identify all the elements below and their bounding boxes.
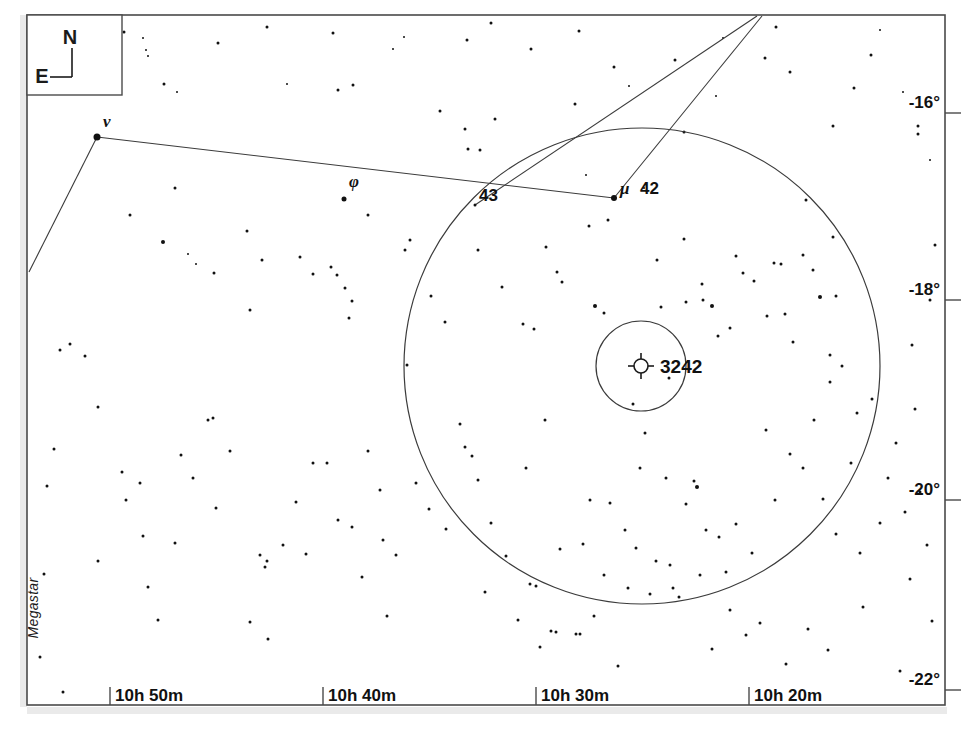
compass-inset: N E — [27, 15, 122, 95]
star-point — [649, 593, 652, 596]
compass-east-label: E — [35, 65, 48, 87]
object-label-mu: μ — [619, 179, 629, 198]
star-point — [931, 620, 934, 623]
star-point — [533, 328, 536, 331]
star-point — [336, 274, 339, 277]
star-point — [627, 587, 630, 590]
star-point — [312, 462, 315, 465]
star-point — [742, 272, 745, 275]
star-point — [180, 454, 183, 457]
star-point — [829, 354, 832, 357]
object-label-nu: ν — [103, 112, 111, 131]
star-point — [856, 412, 859, 415]
star-point — [871, 398, 874, 401]
star-point — [46, 485, 49, 488]
star-point — [678, 596, 681, 599]
star-point-star-43 — [474, 204, 477, 207]
star-point — [217, 42, 220, 45]
star-point — [477, 249, 480, 252]
star-point — [43, 573, 46, 576]
star-point — [899, 670, 902, 673]
star-point — [841, 365, 844, 368]
star-point — [702, 299, 705, 302]
star-point — [69, 343, 72, 346]
star-point — [773, 262, 776, 265]
star-point — [729, 327, 732, 330]
star-point — [379, 489, 382, 492]
star-point — [575, 633, 578, 636]
star-point — [660, 306, 663, 309]
star-point — [404, 249, 407, 252]
star-point — [745, 634, 748, 637]
star-point — [337, 89, 340, 92]
star-point — [445, 528, 448, 531]
object-label-phi: φ — [349, 172, 359, 191]
star-point — [701, 283, 704, 286]
star-point — [530, 48, 533, 51]
star-point — [805, 199, 808, 202]
star-point — [464, 128, 467, 131]
star-point — [588, 225, 591, 228]
star-point — [917, 125, 920, 128]
star-point — [904, 511, 907, 514]
star-point — [367, 214, 370, 217]
star-point — [123, 31, 126, 34]
star-point — [827, 649, 830, 652]
star-point-phi — [342, 197, 347, 202]
star-point — [266, 26, 269, 29]
star-point — [406, 364, 409, 367]
star-point — [266, 560, 269, 563]
star-point — [326, 462, 329, 465]
star-point — [695, 485, 699, 489]
star-point — [718, 536, 721, 539]
star-point — [249, 309, 252, 312]
star-point — [683, 238, 686, 241]
star-point — [813, 419, 816, 422]
star-point — [84, 355, 87, 358]
star-point — [832, 125, 835, 128]
star-point — [607, 219, 610, 222]
star-point — [174, 187, 177, 190]
star-point — [501, 286, 504, 289]
star-point — [444, 321, 447, 324]
star-point — [386, 615, 389, 618]
star-point — [428, 508, 431, 511]
star-point — [835, 295, 838, 298]
star-point — [613, 66, 616, 69]
star-point — [710, 304, 714, 308]
star-point — [725, 571, 728, 574]
star-point — [574, 103, 577, 106]
star-point — [780, 263, 783, 266]
star-point — [467, 148, 470, 151]
star-point — [249, 621, 252, 624]
star-point — [312, 273, 315, 276]
star-point — [685, 503, 688, 506]
star-point — [147, 55, 149, 57]
star-point — [97, 560, 100, 563]
star-point — [639, 467, 642, 470]
star-point — [835, 533, 838, 536]
star-point — [59, 349, 62, 352]
star-point — [729, 609, 732, 612]
star-point — [705, 529, 708, 532]
star-point — [471, 455, 474, 458]
star-point — [585, 174, 587, 176]
star-point — [415, 482, 418, 485]
star-point — [785, 663, 788, 666]
object-label-ngc-3242: 3242 — [660, 356, 702, 377]
ra-tick-label: 10h 30m — [541, 686, 609, 705]
star-point — [286, 83, 288, 85]
star-point — [187, 253, 189, 255]
star-point — [403, 36, 405, 38]
star-chart: νφ43μ423242 10h 50m10h 40m10h 30m10h 20m… — [0, 0, 974, 731]
star-point — [759, 622, 762, 625]
star-point — [579, 633, 582, 636]
ra-tick-label: 10h 50m — [115, 686, 183, 705]
star-point — [539, 646, 542, 649]
star-point — [295, 501, 298, 504]
sky-plot: νφ43μ423242 10h 50m10h 40m10h 30m10h 20m… — [0, 0, 974, 731]
star-point — [717, 335, 720, 338]
star-point — [129, 214, 132, 217]
star-point — [699, 574, 702, 577]
dec-tick-label: -20° — [909, 480, 941, 499]
